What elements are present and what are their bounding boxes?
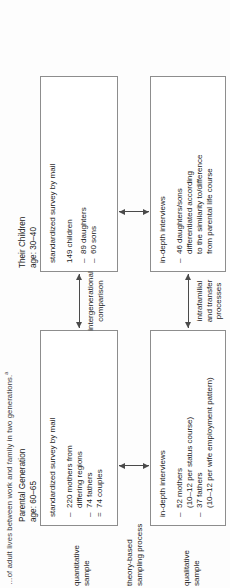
column-header-children-age: age: 30–40 [29, 217, 40, 268]
list-text: 74 fathers [85, 472, 94, 508]
list-marker: – [85, 513, 95, 517]
list-marker: – [65, 513, 75, 517]
row-label-qualitative-line1: qualitative [182, 550, 192, 586]
research-design-diagram: …of adult lives between work and family … [0, 0, 230, 588]
box-item-list: –220 mothers from differing regions –74 … [65, 339, 105, 517]
column-header-children-name: Their Children [18, 217, 29, 268]
list-text: differing regions [75, 451, 84, 508]
list-text: (10–12 per wife employment pattern) [205, 377, 214, 508]
list-item: –220 mothers from [65, 339, 75, 517]
list-item: (10–12 per status course) [185, 339, 195, 517]
list-item: =74 couples [95, 339, 105, 517]
row-label-quantitative-line2: sample [82, 545, 92, 586]
box-item-list: –46 daughters/sons differentiated accord… [175, 85, 215, 263]
connector-label-line1: intergenerational [86, 258, 96, 344]
list-item: (10–12 per wife employment pattern) [205, 339, 215, 517]
box-method-label: standardized survey by mail [48, 339, 58, 517]
list-text: to the similarity to/difference [195, 155, 204, 254]
connector-label-intrafamilial-transfer-processes: intrafamilial and transfer processes [195, 258, 224, 344]
list-item: –37 fathers [195, 339, 205, 517]
row-label-qualitative-line2: sample [192, 550, 202, 586]
list-item: differentiated according [185, 85, 195, 263]
list-text: 74 couples [95, 469, 104, 508]
list-item: –74 fathers [85, 339, 95, 517]
box-method-label: in-depth interviews [158, 339, 168, 517]
list-item: differing regions [75, 339, 85, 517]
row-label-qualitative-sample: qualitative sample [182, 550, 202, 586]
box-quantitative-parental-generation: standardized survey by mail –220 mothers… [40, 330, 118, 526]
list-text: 46 daughters/sons [175, 188, 184, 254]
box-subtotal-label: 149 children [65, 85, 75, 263]
figure-viewport: …of adult lives between work and family … [0, 0, 230, 588]
list-marker: = [95, 512, 105, 517]
connector-label-line2: comparison [96, 258, 106, 344]
column-header-their-children: Their Children age: 30–40 [18, 217, 39, 268]
box-item-list: –52 mothers (10–12 per status course) –3… [175, 339, 215, 517]
row-label-theory-based-sampling-process: theory-based sampling process [125, 524, 145, 586]
double-arrow-intergenerational-icon [79, 274, 80, 328]
column-header-parental-name: Parental Generation [18, 449, 29, 522]
connector-label-intergenerational-comparison: intergenerational comparison [86, 258, 105, 344]
column-header-parental-age: age: 60–65 [29, 449, 40, 522]
list-item: –89 daughters [79, 85, 89, 263]
list-text: 37 fathers [195, 472, 204, 508]
list-marker: – [195, 513, 205, 517]
list-text: 60 sons [89, 226, 98, 254]
list-text: from parental life course [205, 168, 214, 254]
connector-label-line3: processes [214, 258, 224, 344]
list-item: from parental life course [205, 85, 215, 263]
list-text: 52 mothers [175, 468, 184, 508]
box-item-list: –89 daughters –60 sons [79, 85, 99, 263]
box-method-label: in-depth interviews [158, 85, 168, 263]
row-label-quantitative-line1: quantitative [72, 545, 82, 586]
column-header-parental-generation: Parental Generation age: 60–65 [18, 449, 39, 522]
row-label-sampling-line1: theory-based [125, 524, 135, 586]
double-arrow-sampling-parental-icon [119, 465, 149, 466]
list-text: differentiated according [185, 171, 194, 254]
list-text: (10–12 per status course) [185, 417, 194, 508]
figure-title-text: …of adult lives between work and family … [5, 375, 14, 585]
box-method-label: standardized survey by mail [48, 85, 58, 263]
connector-label-line1: intrafamilial [195, 258, 205, 344]
connector-label-line2: and transfer [205, 258, 215, 344]
double-arrow-intrafamilial-icon [188, 274, 189, 328]
list-item: to the similarity to/difference [195, 85, 205, 263]
box-quantitative-their-children: standardized survey by mail 149 children… [40, 76, 118, 272]
list-text: 89 daughters [79, 207, 88, 254]
list-item: –52 mothers [175, 339, 185, 517]
figure-title-footnote-marker: a [3, 372, 9, 375]
list-marker: – [175, 259, 185, 263]
list-item: –46 daughters/sons [175, 85, 185, 263]
row-label-quantitative-sample: quantitative sample [72, 545, 92, 586]
row-label-sampling-line2: sampling process [135, 524, 145, 586]
list-text: 220 mothers from [65, 445, 74, 508]
list-marker: – [175, 513, 185, 517]
figure-title: …of adult lives between work and family … [2, 7, 14, 585]
box-interviews-their-children: in-depth interviews –46 daughters/sons d… [150, 76, 226, 272]
box-interviews-parental-generation: in-depth interviews –52 mothers (10–12 p… [150, 330, 226, 526]
list-item: –60 sons [89, 85, 99, 263]
double-arrow-sampling-children-icon [119, 211, 149, 212]
